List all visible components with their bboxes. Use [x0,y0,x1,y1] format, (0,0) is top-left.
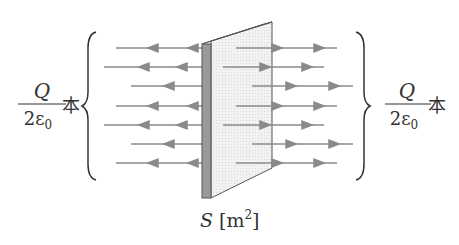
svg-text:本: 本 [428,95,446,116]
svg-text:Q: Q [34,79,50,103]
right-brace [356,32,370,180]
svg-text:2ε0: 2ε0 [24,108,52,132]
left-field-lines [104,44,202,167]
right-label: Q 2ε0 本 [385,79,446,132]
left-brace [82,32,96,180]
left-label: Q 2ε0 本 [18,79,80,132]
field-diagram: Q 2ε0 本 Q 2ε0 本 S[m2] [0,0,459,245]
svg-text:Q: Q [399,79,415,103]
svg-text:2ε0: 2ε0 [390,108,418,132]
svg-text:本: 本 [62,95,80,116]
plate-area-label: S[m2] [200,208,260,231]
